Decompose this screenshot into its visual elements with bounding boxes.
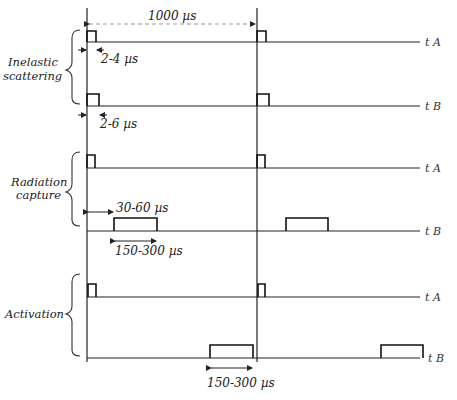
timing-diagram: 1000 µs Inelastic scattering t A 2-4 µs …	[0, 0, 457, 400]
pulse-b-1	[210, 345, 253, 358]
pulse-b-2	[257, 94, 269, 106]
pulse-a-1	[88, 284, 96, 297]
line-b-label: t B	[425, 100, 441, 113]
annotation-2-4: 2-4 µs	[100, 52, 138, 66]
line-a-label: t A	[425, 36, 441, 49]
group-label-line1: Activation	[4, 307, 64, 321]
pulse-a-2	[257, 31, 266, 42]
annotation-150-300: 150-300 µs	[207, 376, 275, 390]
pulse-a-2	[257, 155, 265, 168]
pulse-a-1	[87, 31, 96, 42]
group-label-line1: Radiation	[10, 175, 67, 189]
pulse-a-1	[87, 155, 95, 168]
brace-icon	[66, 152, 80, 226]
group-label-line2: capture	[16, 188, 61, 202]
pulse-a-2	[258, 284, 265, 297]
pulse-b-1	[114, 218, 157, 231]
pulse-b-2	[381, 345, 423, 358]
annotation-30-60: 30-60 µs	[116, 201, 168, 215]
group-inelastic-scattering: Inelastic scattering t A 2-4 µs t B 2-6 …	[3, 30, 441, 131]
group-radiation-capture: Radiation capture t A 30-60 µs t B 150-3…	[10, 152, 441, 258]
annotation-150-300: 150-300 µs	[115, 244, 183, 258]
line-b-label: t B	[425, 225, 441, 238]
group-label-line2: scattering	[3, 69, 62, 83]
pulse-b-1	[87, 94, 99, 106]
line-a-label: t A	[425, 291, 441, 304]
group-label-line1: Inelastic	[7, 55, 58, 69]
brace-icon	[66, 274, 80, 356]
interval-label: 1000 µs	[148, 9, 196, 23]
annotation-2-6: 2-6 µs	[99, 117, 137, 131]
line-b-label: t B	[428, 352, 444, 365]
line-a-label: t A	[425, 162, 441, 175]
pulse-b-2	[286, 218, 328, 231]
group-activation: Activation t A t B 150-300 µs	[4, 274, 444, 390]
brace-icon	[66, 30, 80, 104]
